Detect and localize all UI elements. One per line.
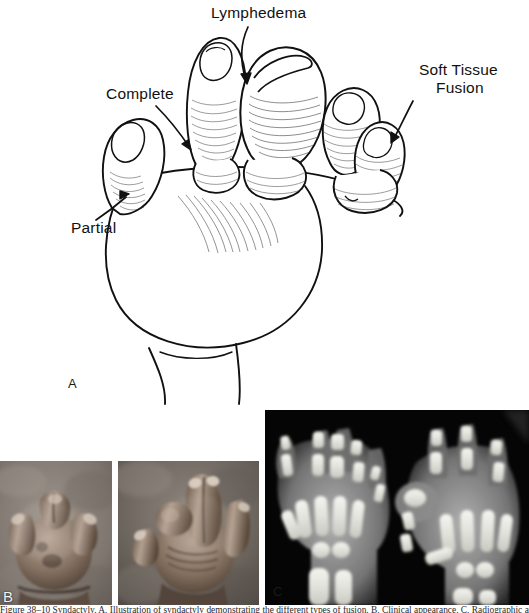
annotation-soft-tissue-line1: Soft Tissue [419,61,498,78]
annotation-lymphedema-label: Lymphedema [211,4,307,21]
panel-letter-a: A [68,376,77,391]
annotation-soft-tissue-fusion: Soft Tissue Fusion [391,61,498,143]
clinical-photo-left [0,461,112,605]
panel-c-radiograph: C [265,410,529,605]
annotation-complete-label: Complete [106,85,174,102]
panel-a-illustration: Complete Lymphedema Soft Tissue Fusion P… [0,0,529,405]
figure-container: Complete Lymphedema Soft Tissue Fusion P… [0,0,529,613]
panel-letter-c: C [273,584,282,599]
panel-b-photographs: B [0,461,260,605]
clinical-photo-right [118,461,259,605]
figure-caption: Figure 38–10 Syndactyly. A, Illustration… [0,606,529,613]
panel-letter-b: B [3,589,13,604]
annotation-soft-tissue-line2: Fusion [436,79,484,96]
figure-caption-text: Figure 38–10 Syndactyly. A, Illustration… [0,606,529,613]
annotation-partial-label: Partial [71,219,116,236]
